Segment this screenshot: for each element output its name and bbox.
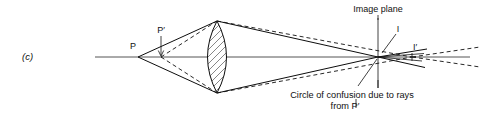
- label-object-point-P-prime: P′: [157, 25, 165, 35]
- label-object-point-P: P: [130, 41, 136, 51]
- lens-outline: [208, 21, 227, 93]
- caption-leader: [358, 59, 377, 86]
- image-point-leader: [382, 34, 396, 53]
- panel-label: (c): [22, 51, 33, 62]
- figure-container: (c) P P′ I I′ Image plane Circle of conf…: [0, 0, 497, 120]
- label-image-point-I: I: [397, 24, 400, 34]
- caption-line-1: Circle of confusion due to rays: [290, 90, 414, 100]
- ray-diagram-svg: (c) P P′ I I′ Image plane Circle of conf…: [0, 0, 497, 120]
- caption-line-2: from P′: [331, 101, 360, 111]
- label-image-plane: Image plane: [353, 4, 403, 14]
- label-image-point-I-prime: I′: [413, 42, 418, 52]
